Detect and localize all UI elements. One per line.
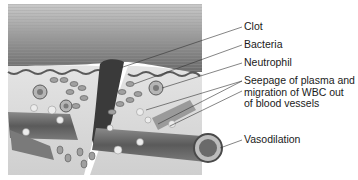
label-seepage-line-3: of blood vessels (244, 98, 355, 110)
label-clot: Clot (244, 21, 263, 33)
label-vasodilation: Vasodilation (244, 134, 300, 146)
label-seepage: Seepage of plasma and migration of WBC o… (244, 75, 355, 110)
label-neutrophil: Neutrophil (244, 57, 292, 69)
label-bacteria: Bacteria (244, 39, 283, 51)
label-seepage-line-1: Seepage of plasma and (244, 75, 355, 87)
tissue-block (8, 4, 222, 175)
